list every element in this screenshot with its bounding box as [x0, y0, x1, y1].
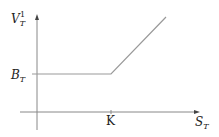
payoff-curve — [32, 17, 166, 74]
level-label: BT — [10, 68, 26, 84]
y-axis-arrow-icon — [35, 14, 39, 20]
x-axis-arrow-icon — [194, 110, 200, 114]
x-axis-label: ST — [195, 115, 209, 131]
strike-label: K — [106, 114, 116, 128]
y-axis-label: VT1 — [11, 10, 26, 28]
payoff-diagram: VT1 BT K ST — [0, 0, 219, 137]
